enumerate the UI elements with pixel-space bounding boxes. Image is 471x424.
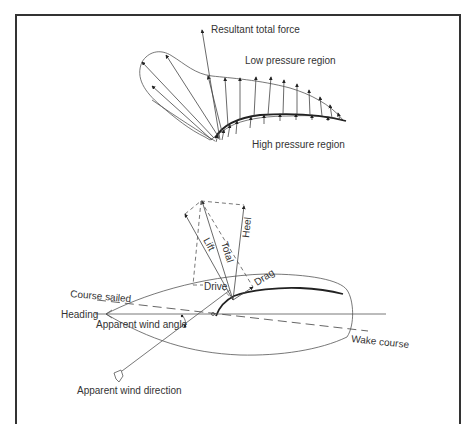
- drive-label: Drive: [204, 281, 228, 292]
- heading-label: Heading: [61, 309, 98, 320]
- low-pressure-label: Low pressure region: [245, 55, 336, 66]
- hull-outline: [106, 274, 353, 355]
- resultant-force-arrow: [202, 30, 220, 140]
- course-sailed-label: Course sailed: [70, 288, 132, 304]
- apparent-wind-angle-label: Apparent wind angle: [96, 319, 188, 330]
- boat-diagram: Lift Total Heel Drive Drag Course sailed…: [61, 201, 410, 396]
- wind-vane-icon: [114, 370, 123, 382]
- heel-label: Heel: [240, 217, 253, 239]
- high-pressure-arrows: [216, 114, 328, 142]
- drag-force-arrow: [233, 287, 253, 300]
- high-pressure-label: High pressure region: [252, 139, 345, 150]
- apparent-wind-direction-label: Apparent wind direction: [77, 385, 182, 396]
- sail-boom: [216, 288, 343, 316]
- sail-section: [215, 114, 346, 138]
- wake-course-label: Wake course: [351, 333, 410, 350]
- total-label: Total: [219, 240, 236, 263]
- pressure-diagram: Resultant total force Low pressure regio…: [140, 24, 346, 150]
- drag-label: Drag: [252, 267, 276, 288]
- resultant-force-label: Resultant total force: [211, 24, 300, 35]
- lift-label: Lift: [201, 236, 217, 253]
- low-pressure-arrows: [142, 55, 340, 140]
